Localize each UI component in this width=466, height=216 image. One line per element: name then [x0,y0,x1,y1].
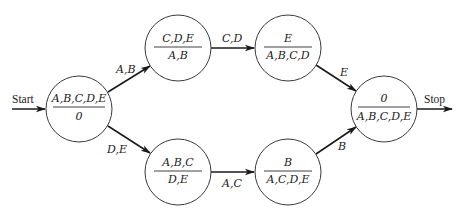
node-bottom: 0 [76,110,83,123]
edge-n4-n5: B [316,127,356,154]
node-top: A,B,C,D,E [51,92,107,105]
start-label: Start [12,93,35,105]
node-top: B [283,156,292,169]
edge-label: A,B [115,63,136,76]
start-arrow: Start [12,93,45,109]
node-top: E [283,32,292,45]
node-bottom: A,B,C,D [265,49,310,62]
node-end: 0 A,B,C,D,E [351,76,417,142]
node-top: 0 [381,92,388,105]
edge-label: B [337,140,346,153]
node-upper-2: E A,B,C,D [255,15,321,81]
edge-label: E [339,66,348,79]
edge-n1-n3: C,D [211,32,254,48]
node-upper-1: C,D,E A,B [145,15,211,81]
node-start: A,B,C,D,E 0 [46,76,112,142]
node-top: C,D,E [162,32,193,45]
edge-label: C,D [222,32,243,45]
edge-n0-n2: D,E [106,126,150,156]
stop-label: Stop [424,93,445,106]
node-bottom: D,E [167,173,188,186]
node-bottom: A,B,C,D,E [356,110,412,123]
node-lower-1: A,B,C D,E [145,139,211,205]
node-lower-2: B A,C,D,E [255,139,321,205]
edge-label: A,C [221,177,242,190]
stop-arrow: Stop [417,93,452,109]
edge-n3-n5: E [316,65,356,91]
edge-label: D,E [106,143,127,156]
node-bottom: A,C,D,E [266,173,310,186]
edge-n0-n1: A,B [108,63,150,92]
edge-n2-n4: A,C [211,172,254,190]
node-bottom: A,B [167,49,188,62]
node-top: A,B,C [161,156,194,169]
state-diagram: Start Stop A,B D,E C,D A,C E B A,B,C,D,E… [0,0,466,216]
